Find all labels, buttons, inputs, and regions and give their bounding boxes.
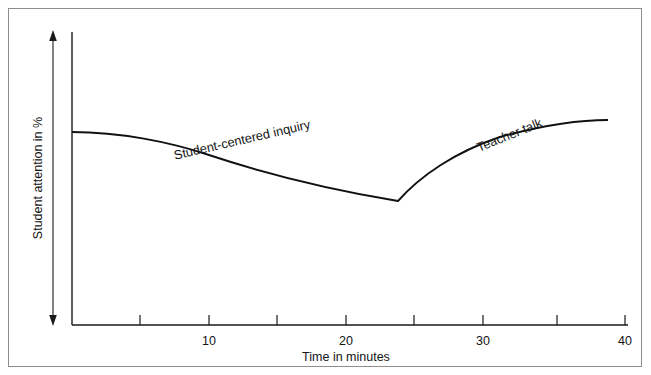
x-axis-title: Time in minutes [302,350,390,364]
x-tick-label-10: 10 [202,334,216,348]
attention-line-chart: Student attention in % 10 20 30 40 Time … [0,0,651,375]
annotation-teacher-talk: Teacher talk [475,115,545,155]
x-axis-ticks [140,315,625,325]
x-axis-tick-labels: 10 20 30 40 [202,334,632,348]
annotation-student-centered-inquiry: Student-centered inquiry [172,116,312,162]
x-tick-label-30: 30 [476,334,490,348]
y-axis-arrow-group [49,30,57,326]
y-axis-arrow-head-up [49,30,57,41]
x-tick-label-20: 20 [339,334,353,348]
x-tick-label-40: 40 [618,334,632,348]
y-axis-arrow-head-down [49,315,57,326]
y-axis-title: Student attention in % [31,117,45,239]
figure-root: Student attention in % 10 20 30 40 Time … [0,0,651,375]
